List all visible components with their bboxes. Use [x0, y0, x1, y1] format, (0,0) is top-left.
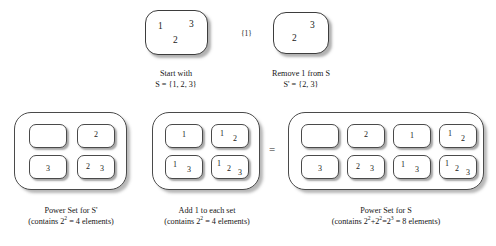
- power-set-s-prime-container: 2 3 2 3: [14, 112, 127, 190]
- reduced-element-2: 2: [292, 34, 297, 44]
- set-1-2: 1 2: [211, 124, 249, 148]
- set-2-3: 2 3: [77, 155, 115, 179]
- power-set-s-prime-caption: Power Set for S' (contains 22 = 4 elemen…: [0, 205, 142, 227]
- start-set-box: 1 3 2: [145, 10, 208, 55]
- add-one-caption: Add 1 to each set (contains 22 = 4 eleme…: [136, 205, 278, 227]
- element-1: 1: [182, 131, 186, 139]
- reduced-set-box: 3 2: [273, 12, 329, 54]
- set-empty: [301, 124, 339, 148]
- reduced-caption-line2: S' = {2, 3}: [251, 79, 351, 90]
- element-2: 2: [227, 165, 231, 173]
- caption-pre: (contains 2: [332, 217, 368, 226]
- set-3: 3: [301, 155, 339, 179]
- reduced-caption: Remove 1 from S S' = {2, 3}: [251, 68, 351, 90]
- add-one-container: 1 1 2 1 3 1 2 3: [152, 112, 260, 190]
- element-1: 1: [217, 160, 221, 168]
- caption-mid-2: =2: [382, 217, 391, 226]
- start-caption-line2: S = {1, 2, 3}: [126, 79, 226, 90]
- caption-post: = 8 elements): [394, 217, 441, 226]
- element-1: 1: [445, 160, 449, 168]
- caption-line2: (contains 22 = 4 elements): [136, 216, 278, 227]
- power-set-s-container: 2 1 1 2 3 2 3 1 3 1 2 3: [288, 112, 484, 190]
- caption-pre: (contains 2: [28, 217, 64, 226]
- removed-element-label: {1}: [241, 29, 252, 38]
- start-caption: Start with S = {1, 2, 3}: [126, 68, 226, 90]
- element-2: 2: [233, 135, 237, 143]
- element-1: 1: [220, 130, 224, 138]
- caption-line2: (contains 22 = 4 elements): [0, 216, 142, 227]
- element-3: 3: [318, 165, 322, 173]
- power-set-s-caption: Power Set for S (contains 22+22=23 = 8 e…: [300, 205, 472, 227]
- start-element-2: 2: [173, 36, 178, 46]
- element-1: 1: [173, 161, 177, 169]
- start-caption-line1: Start with: [160, 69, 192, 78]
- set-2: 2: [347, 124, 385, 148]
- set-3: 3: [29, 155, 67, 179]
- element-3: 3: [100, 165, 104, 173]
- element-2: 2: [94, 131, 98, 139]
- element-3: 3: [466, 169, 470, 177]
- set-empty: [29, 124, 67, 148]
- set-2-3: 2 3: [347, 155, 385, 179]
- set-1-3: 1 3: [393, 155, 431, 179]
- caption-line1: Add 1 to each set: [179, 206, 236, 215]
- reduced-element-3: 3: [310, 21, 315, 31]
- set-1: 1: [393, 124, 431, 148]
- element-2: 2: [356, 163, 360, 171]
- set-1-3: 1 3: [165, 155, 203, 179]
- start-element-1: 1: [158, 22, 163, 32]
- caption-line1: Power Set for S': [44, 206, 97, 215]
- set-1-2: 1 2: [439, 124, 477, 148]
- element-2: 2: [364, 131, 368, 139]
- equals-sign: =: [269, 144, 275, 155]
- caption-post: = 4 elements): [203, 217, 250, 226]
- element-3: 3: [46, 165, 50, 173]
- caption-post: = 4 elements): [67, 217, 114, 226]
- caption-pre: (contains 2: [164, 217, 200, 226]
- element-1: 1: [401, 161, 405, 169]
- start-element-3: 3: [189, 20, 194, 30]
- element-3: 3: [187, 166, 191, 174]
- set-2: 2: [77, 124, 115, 148]
- set-1: 1: [165, 124, 203, 148]
- element-1: 1: [448, 130, 452, 138]
- set-1-2-3: 1 2 3: [211, 155, 249, 179]
- element-2: 2: [461, 135, 465, 143]
- reduced-caption-line1: Remove 1 from S: [272, 69, 330, 78]
- caption-line2: (contains 22+22=23 = 8 elements): [300, 216, 472, 227]
- element-3: 3: [415, 166, 419, 174]
- set-1-2-3: 1 2 3: [439, 155, 477, 179]
- element-3: 3: [238, 169, 242, 177]
- power-set-diagram: 1 3 2 Start with S = {1, 2, 3} {1} 3 2 R…: [0, 0, 496, 246]
- caption-line1: Power Set for S: [360, 206, 412, 215]
- element-1: 1: [410, 132, 414, 140]
- element-2: 2: [86, 163, 90, 171]
- element-3: 3: [370, 165, 374, 173]
- element-2: 2: [455, 165, 459, 173]
